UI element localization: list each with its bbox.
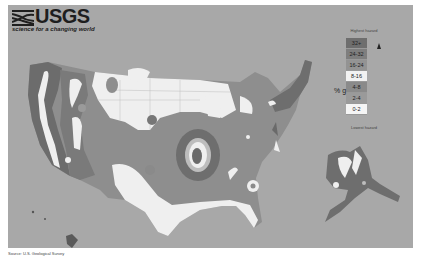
legend-swatch-2-4: 2-4 [346,93,367,104]
hawaii-big-island [66,234,78,248]
legend-swatch-0-2: 0-2 [346,104,367,115]
logo-text: USGS [35,5,90,28]
legend-swatch-8-16: 8-16 [346,71,367,82]
tagline: science for a changing world [12,26,95,32]
legend-swatch-4-8: 4-8 [346,82,367,93]
legend-swatch-24-32: 24-32 [346,49,367,60]
legend-lowest-label: Lowest hazard [334,125,394,130]
legend-swatches: 32+ 24-32 16-24 8-16 4-8 2-4 0-2 [346,38,367,115]
legend-highest-label: Highest hazard [334,28,394,33]
arrow-up-icon [377,43,381,49]
usgs-wave-icon [12,10,34,26]
source-caption: Source: U.S. Geological Survey [8,251,64,256]
legend-swatch-16-24: 16-24 [346,60,367,71]
legend-swatch-32plus: 32+ [346,38,367,49]
unit-label: % g [334,87,346,94]
